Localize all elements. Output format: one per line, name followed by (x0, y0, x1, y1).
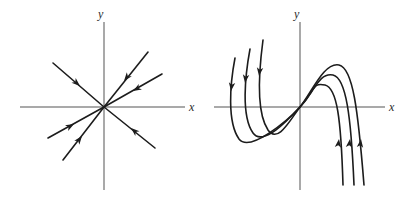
panel-star-node: x y (0, 0, 206, 199)
ray-upper-left (53, 63, 104, 107)
ray-upper-right-shallow (104, 74, 162, 107)
panel-cubic-trajectories: x y (206, 0, 412, 199)
arrow-icon (65, 121, 76, 131)
ray-lower-right (104, 107, 155, 148)
phase-portrait-figure: x y (0, 0, 412, 199)
ray-lower-left-steep (63, 107, 104, 160)
y-axis-label: y (293, 7, 300, 21)
x-axis-label: x (188, 100, 195, 114)
y-axis-label: y (97, 7, 104, 21)
ray-lower-left-shallow (48, 107, 104, 138)
x-axis-label: x (388, 100, 395, 114)
ray-upper-right-steep (104, 52, 148, 107)
